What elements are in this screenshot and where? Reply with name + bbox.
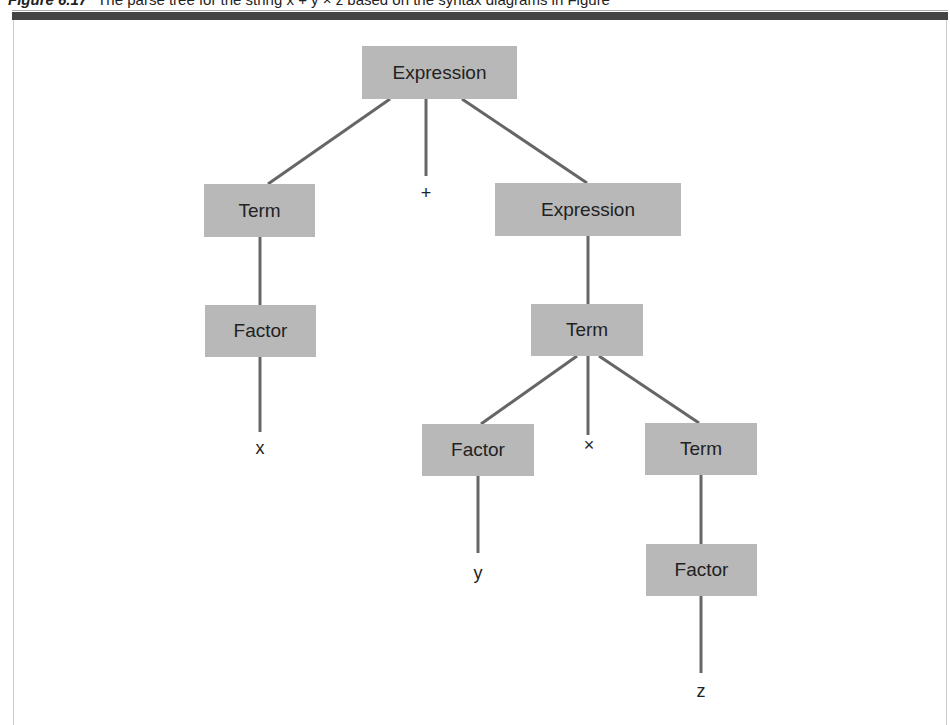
- leaf-x: x: [256, 438, 265, 459]
- node-factor-y: Factor: [422, 424, 534, 476]
- edge-root-term: [268, 99, 390, 184]
- edge-term-factor2: [481, 356, 577, 424]
- node-factor-z: Factor: [646, 544, 757, 596]
- node-term-left: Term: [204, 184, 315, 237]
- leaf-z: z: [697, 681, 706, 702]
- leaf-y: y: [474, 563, 483, 584]
- edge-root-expression: [462, 99, 587, 183]
- tree-edges: [0, 0, 950, 725]
- edge-term-term2: [599, 356, 699, 423]
- node-expression-right: Expression: [495, 183, 681, 236]
- node-term-middle: Term: [531, 304, 643, 356]
- node-term-right: Term: [645, 423, 757, 475]
- node-factor-left: Factor: [205, 305, 316, 357]
- node-expression-root: Expression: [362, 46, 517, 99]
- leaf-times-operator: ×: [584, 435, 595, 456]
- leaf-plus-operator: +: [421, 183, 432, 204]
